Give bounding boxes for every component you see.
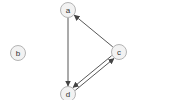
edge-c-to-a	[74, 15, 113, 47]
edge-c-to-d	[73, 56, 112, 88]
node-label: d	[66, 90, 70, 99]
node-label: a	[66, 6, 71, 15]
edge-d-to-c	[75, 58, 114, 90]
node-label: c	[117, 48, 121, 57]
node-label: b	[16, 49, 21, 58]
node-d: d	[61, 87, 76, 101]
node-c: c	[112, 45, 127, 60]
node-a: a	[61, 3, 76, 18]
node-b: b	[11, 46, 26, 61]
edges-layer	[68, 15, 114, 90]
nodes-layer: abcd	[11, 3, 127, 101]
directed-graph: abcd	[0, 0, 173, 100]
